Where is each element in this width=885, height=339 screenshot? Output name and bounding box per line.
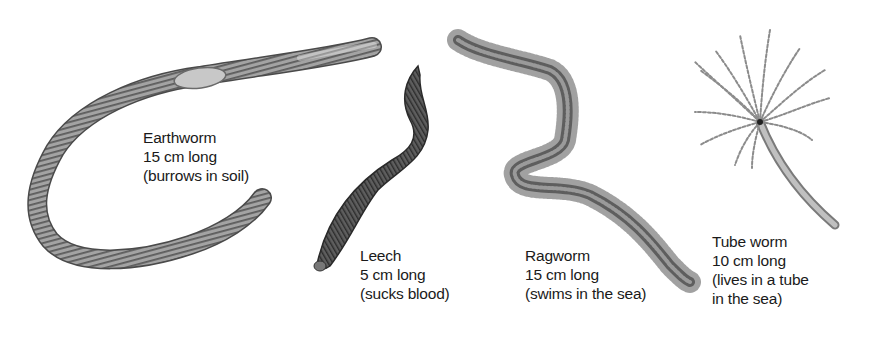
annelid-worms-illustration: Earthworm 15 cm long (burrows in soil) L…	[0, 0, 885, 339]
ragworm-note: (swims in the sea)	[525, 284, 646, 303]
leech-label: Leech 5 cm long (sucks blood)	[360, 246, 450, 303]
tube-worm-label: Tube worm 10 cm long (lives in a tube in…	[712, 232, 809, 308]
tube-worm-illustration	[695, 30, 835, 225]
earthworm-length: 15 cm long	[143, 147, 249, 166]
leech-name: Leech	[360, 246, 450, 265]
earthworm-name: Earthworm	[143, 128, 249, 147]
ragworm-length: 15 cm long	[525, 265, 646, 284]
leech-note: (sucks blood)	[360, 284, 450, 303]
tube-worm-length: 10 cm long	[712, 251, 809, 270]
earthworm-label: Earthworm 15 cm long (burrows in soil)	[143, 128, 249, 185]
leech-length: 5 cm long	[360, 265, 450, 284]
leech-illustration	[314, 66, 428, 271]
tube-worm-name: Tube worm	[712, 232, 809, 251]
ragworm-name: Ragworm	[525, 246, 646, 265]
tube-worm-note: (lives in a tube	[712, 270, 809, 289]
ragworm-label: Ragworm 15 cm long (swims in the sea)	[525, 246, 646, 303]
earthworm-note: (burrows in soil)	[143, 166, 249, 185]
tube-worm-note-line2: in the sea)	[712, 289, 809, 308]
